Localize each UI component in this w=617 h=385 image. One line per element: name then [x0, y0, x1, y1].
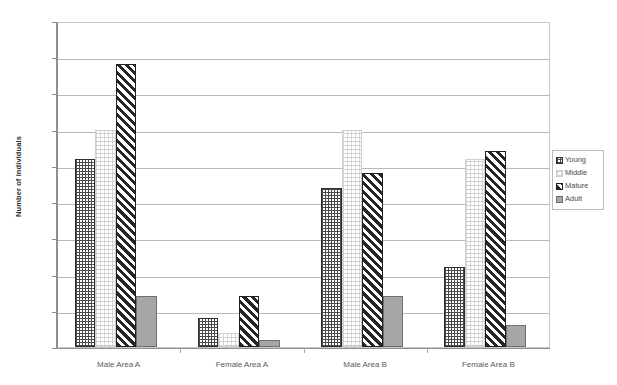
bar-mature-female-area-b	[485, 151, 506, 347]
bar-young-female-area-b	[444, 267, 465, 347]
bar-middle-female-area-b	[465, 159, 486, 347]
legend-swatch-adult-icon	[556, 196, 563, 203]
legend-label: Adult	[565, 195, 582, 203]
legend-item-young[interactable]: Young	[556, 154, 601, 166]
bar-young-male-area-b	[321, 188, 342, 347]
legend-swatch-mature-icon	[556, 183, 563, 190]
bar-middle-male-area-b	[342, 130, 363, 347]
bar-mature-female-area-a	[239, 296, 260, 347]
y-axis: 051015202530354045	[0, 0, 57, 348]
gridline	[58, 59, 549, 60]
bar-adult-male-area-a	[136, 296, 157, 347]
legend-item-mature[interactable]: Mature	[556, 180, 601, 192]
x-axis-tick-mark	[304, 348, 305, 353]
legend-label: Middle	[565, 169, 587, 177]
x-axis-label-female-area-a: Female Area A	[216, 360, 268, 369]
y-axis-title: Number of individuals	[14, 117, 23, 237]
legend-swatch-young-icon	[556, 157, 563, 164]
bar-young-female-area-a	[198, 318, 219, 347]
plot-area	[57, 22, 550, 348]
y-axis-line	[56, 22, 57, 349]
legend-item-adult[interactable]: Adult	[556, 193, 601, 205]
gridline	[58, 23, 549, 24]
x-axis-label-female-area-b: Female Area B	[462, 360, 515, 369]
bar-adult-female-area-a	[259, 340, 280, 347]
bar-mature-male-area-b	[362, 173, 383, 347]
bar-middle-female-area-a	[218, 333, 239, 347]
bar-chart: 051015202530354045 Number of individuals…	[0, 0, 617, 385]
x-axis-tick-mark	[180, 348, 181, 353]
bar-mature-male-area-a	[116, 64, 137, 347]
legend-swatch-middle-icon	[556, 170, 563, 177]
legend-item-middle[interactable]: Middle	[556, 167, 601, 179]
bar-middle-male-area-a	[95, 130, 116, 347]
x-axis-label-male-area-a: Male Area A	[97, 360, 140, 369]
x-axis-tick-mark	[427, 348, 428, 353]
legend-label: Mature	[565, 182, 588, 190]
bar-adult-female-area-b	[506, 325, 527, 347]
chart-legend: YoungMiddleMatureAdult	[552, 150, 604, 210]
bar-adult-male-area-b	[383, 296, 404, 347]
x-axis-label-male-area-b: Male Area B	[343, 360, 387, 369]
bar-young-male-area-a	[75, 159, 96, 347]
legend-label: Young	[565, 156, 586, 164]
